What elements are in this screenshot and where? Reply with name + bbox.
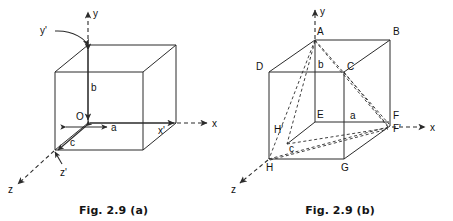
axis-a-z: [18, 151, 54, 184]
vertex-b-F-prime-label: F': [393, 123, 401, 134]
axis-b-z: [240, 160, 268, 183]
caption-b: Fig. 2.9 (b): [227, 204, 453, 217]
axis-a-z-prime-label: z': [60, 167, 67, 178]
vertex-b-A-label: A: [317, 26, 324, 37]
caption-a: Fig. 2.9 (a): [0, 204, 227, 217]
axis-a-x-label: x: [212, 118, 217, 129]
cube-b-construction-lines: [269, 40, 389, 160]
dimension-b-a-label: a: [350, 110, 356, 121]
dimension-a-b-label: b: [91, 82, 97, 93]
cube-b-edge-E-Hprime: [287, 122, 315, 144]
diagram-b-canvas: y x z A B C D E F F' G H H' b a c: [227, 0, 453, 200]
diagram-a-canvas: y x z y' x' z' O b a: [0, 0, 227, 200]
figure-board: y x z y' x' z' O b a: [0, 0, 453, 221]
dimension-b-c-label: c: [289, 143, 294, 154]
vertex-b-F-label: F: [393, 110, 399, 121]
dimension-a-c-label: c: [70, 137, 75, 148]
pointer-a-z-prime: [55, 152, 62, 164]
pointer-a-y-prime: [55, 31, 88, 46]
figure-panel-b: y x z A B C D E F F' G H H' b a c Fig. 2…: [227, 0, 453, 221]
vertex-b-B-label: B: [393, 26, 400, 37]
line-A-H: [269, 40, 315, 159]
cube-b-top-face: [269, 40, 390, 72]
cube-a-back-face: [88, 45, 176, 123]
vertex-b-H-prime-label: H': [274, 124, 283, 135]
origin-a-label: O: [76, 111, 84, 122]
dimension-b-b-label: b: [318, 59, 324, 70]
line-Hprime-Fprime: [287, 128, 388, 144]
vertex-b-E-label: E: [317, 109, 324, 120]
dimension-a-a-label: a: [111, 122, 117, 133]
axis-b-y-label: y: [320, 6, 325, 17]
axis-a-x-prime-label: x': [158, 125, 165, 136]
figure-panel-a: y x z y' x' z' O b a: [0, 0, 227, 221]
vertex-b-D-label: D: [256, 61, 263, 72]
vertex-b-H-label: H: [266, 162, 273, 173]
axis-a-z-label: z: [8, 184, 13, 195]
line-H-Fprime-lower: [270, 129, 388, 160]
vertex-b-G-label: G: [341, 162, 349, 173]
cube-a-edge-top-right: [143, 45, 176, 72]
axis-a-y-prime-label: y': [40, 25, 47, 36]
axis-b-x-label: x: [430, 122, 435, 133]
cube-a-edge-top-left: [55, 45, 88, 72]
axis-b-z-label: z: [231, 184, 236, 195]
vertex-b-C-label: C: [347, 61, 354, 72]
axis-a-y-label: y: [93, 8, 98, 19]
cube-b-edge-G-F: [344, 126, 390, 159]
cube-a-front-face: [55, 72, 143, 150]
